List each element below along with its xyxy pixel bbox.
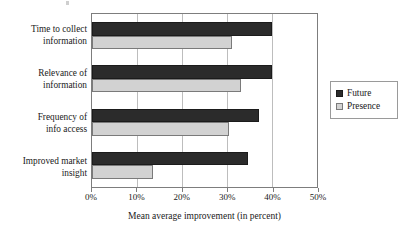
xtick-mark-1	[136, 188, 137, 192]
bar-presence-2[interactable]	[92, 122, 229, 136]
legend-label-future: Future	[347, 87, 371, 100]
legend-swatch-future-icon	[336, 90, 343, 97]
x-axis-title: Mean average improvement (in percent)	[91, 211, 318, 221]
xtick-mark-2	[182, 188, 183, 192]
category-label-3-line-1: insight	[0, 168, 87, 180]
category-band-3	[92, 144, 317, 187]
category-band-0	[92, 14, 317, 57]
category-label-2-line-0: Frequency of	[0, 112, 87, 124]
xtick-label-1: 10%	[116, 192, 156, 202]
category-label-1-line-0: Relevance of	[0, 68, 87, 80]
bar-presence-1[interactable]	[92, 79, 241, 93]
xtick-mark-0	[91, 188, 92, 192]
category-label-0: Time to collect information	[0, 24, 87, 47]
bar-future-2[interactable]	[92, 109, 259, 123]
legend-item-presence[interactable]: Presence	[336, 100, 393, 113]
bar-presence-3[interactable]	[92, 165, 153, 179]
legend-swatch-presence-icon	[336, 103, 343, 110]
category-label-1-line-1: information	[0, 80, 87, 92]
category-label-3: Improved market insight	[0, 156, 87, 179]
xtick-label-5: 50%	[298, 192, 338, 202]
xtick-label-2: 20%	[162, 192, 202, 202]
bar-future-0[interactable]	[92, 22, 272, 36]
bar-presence-0[interactable]	[92, 36, 232, 50]
chart-legend: Future Presence	[330, 81, 398, 119]
xtick-mark-3	[227, 188, 228, 192]
bar-future-3[interactable]	[92, 152, 248, 166]
category-label-1: Relevance of information	[0, 68, 87, 91]
xtick-mark-4	[273, 188, 274, 192]
bar-future-1[interactable]	[92, 65, 272, 79]
category-band-2	[92, 101, 317, 144]
xtick-label-4: 40%	[253, 192, 293, 202]
category-label-2: Frequency of info access	[0, 112, 87, 135]
category-label-2-line-1: info access	[0, 124, 87, 136]
legend-label-presence: Presence	[347, 100, 380, 113]
plot-area	[91, 13, 318, 188]
xtick-mark-5	[318, 188, 319, 192]
category-label-0-line-0: Time to collect	[0, 24, 87, 36]
horizontal-bar-chart: Time to collect information Relevance of…	[0, 0, 408, 243]
xtick-label-3: 30%	[207, 192, 247, 202]
legend-item-future[interactable]: Future	[336, 87, 393, 100]
category-label-3-line-0: Improved market	[0, 156, 87, 168]
category-band-1	[92, 57, 317, 100]
xtick-label-0: 0%	[71, 192, 111, 202]
category-label-0-line-1: information	[0, 36, 87, 48]
